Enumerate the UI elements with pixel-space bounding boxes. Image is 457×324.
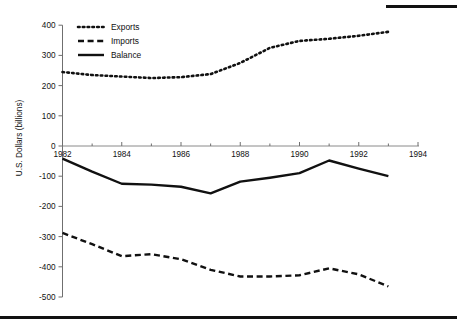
bottom-rule-decoration (0, 316, 457, 319)
x-tick-label: 1982 (53, 150, 72, 159)
y-tick-label: -400 (39, 263, 56, 272)
y-tick-label: 100 (42, 112, 56, 121)
y-tick-label: -500 (39, 293, 56, 302)
series-lines (63, 32, 389, 287)
series-line-balance (63, 159, 389, 194)
x-tick-label: 1992 (350, 150, 369, 159)
series-line-imports (63, 233, 389, 286)
y-tick-label: -300 (39, 233, 56, 242)
y-tick-label: 200 (42, 82, 56, 91)
x-tick-label: 1994 (409, 150, 428, 159)
y-axis-title: U.S. Dollars (billions) (15, 100, 24, 177)
x-tick-label: 1990 (290, 150, 309, 159)
y-tick-label: 300 (42, 51, 56, 60)
trade-balance-figure: 4003002001000-100-200-300-400-500 198219… (0, 0, 457, 324)
top-rule-decoration (386, 5, 457, 8)
line-chart: 4003002001000-100-200-300-400-500 198219… (0, 0, 457, 324)
x-tick-label: 1986 (172, 150, 191, 159)
y-tick-label: 400 (42, 21, 56, 30)
y-tick-label: -200 (39, 202, 56, 211)
legend-label-exports: Exports (111, 22, 139, 32)
legend-label-balance: Balance (111, 50, 142, 60)
x-tick-label: 1988 (231, 150, 250, 159)
chart-legend: ExportsImportsBalance (78, 22, 142, 60)
x-tick-label: 1984 (113, 150, 132, 159)
x-axis: 1982198419861988199019921994 (53, 142, 427, 159)
y-axis: 4003002001000-100-200-300-400-500 (39, 21, 62, 302)
legend-label-imports: Imports (111, 36, 139, 46)
y-tick-label: -100 (39, 172, 56, 181)
